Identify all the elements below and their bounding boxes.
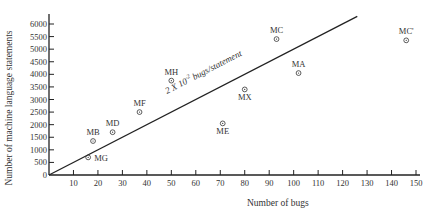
x-tick-label: 10: [69, 178, 78, 188]
y-tick-label: 1000: [30, 145, 47, 155]
point-label: MH: [164, 67, 178, 77]
y-tick-label: 4000: [30, 69, 47, 79]
y-tick-label: 5000: [30, 44, 47, 54]
y-tick-label: 2500: [30, 107, 47, 117]
y-tick-label: 0: [43, 170, 47, 180]
reference-line: [49, 16, 357, 175]
point-center: [92, 140, 93, 141]
y-tick-label: 3000: [30, 95, 47, 105]
x-tick-label: 20: [94, 178, 103, 188]
x-tick-label: 50: [167, 178, 176, 188]
point-center: [244, 89, 245, 90]
data-point: MB: [86, 127, 100, 143]
data-point: ME: [216, 121, 229, 136]
point-center: [171, 80, 172, 81]
x-axis-label: Number of bugs: [247, 198, 309, 208]
point-label: MG: [94, 153, 108, 163]
point-label: MX: [238, 92, 252, 102]
point-label: MC': [399, 26, 414, 36]
x-tick-label: 100: [287, 178, 300, 188]
ref-label-suffix: bugs/statement: [189, 48, 244, 83]
data-point: MG: [86, 153, 108, 163]
x-tick-label: 70: [216, 178, 225, 188]
point-label: MA: [292, 59, 307, 69]
x-tick-label: 80: [240, 178, 249, 188]
x-tick-label: 140: [385, 178, 398, 188]
x-tick-label: 150: [410, 178, 423, 188]
axes: [49, 14, 420, 175]
y-tick-label: 4500: [30, 57, 47, 67]
x-tick-label: 110: [312, 178, 324, 188]
axis-ticks: 1020304050607080901001101201301401500500…: [30, 19, 422, 188]
point-label: MD: [106, 118, 120, 128]
y-tick-label: 6000: [30, 19, 47, 29]
point-label: MC: [270, 25, 284, 35]
y-tick-label: 1500: [30, 132, 47, 142]
point-center: [222, 123, 223, 124]
y-tick-label: 5500: [30, 32, 47, 42]
data-point: MF: [133, 98, 146, 114]
data-point: MD: [106, 118, 120, 134]
y-tick-label: 500: [34, 157, 47, 167]
x-tick-label: 90: [265, 178, 274, 188]
data-point: MX: [238, 87, 252, 102]
x-tick-label: 30: [118, 178, 127, 188]
point-center: [112, 132, 113, 133]
x-tick-label: 60: [192, 178, 201, 188]
point-center: [276, 39, 277, 40]
data-point: MC': [399, 26, 414, 42]
point-label: ME: [216, 126, 229, 136]
point-label: MB: [86, 127, 100, 137]
scatter-chart: 1020304050607080901001101201301401500500…: [0, 0, 437, 213]
x-tick-label: 120: [336, 178, 349, 188]
data-point: MC: [270, 25, 284, 41]
point-center: [298, 72, 299, 73]
y-tick-label: 3500: [30, 82, 47, 92]
y-tick-label: 2000: [30, 120, 47, 130]
data-points: MGMBMDMFMHMEMXMCMAMC': [86, 25, 414, 163]
point-center: [139, 111, 140, 112]
point-center: [88, 157, 89, 158]
data-point: MA: [292, 59, 307, 75]
x-tick-label: 130: [361, 178, 374, 188]
y-axis-label: Number of machine language statements: [4, 30, 14, 185]
x-tick-label: 40: [143, 178, 152, 188]
point-center: [406, 40, 407, 41]
point-label: MF: [133, 98, 146, 108]
